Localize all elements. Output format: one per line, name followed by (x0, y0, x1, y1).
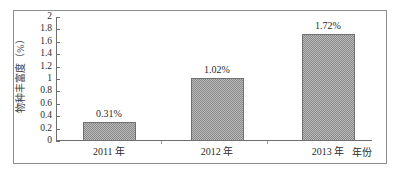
x-tick-mark (161, 141, 162, 144)
y-tick-label: 0.2 (0, 124, 52, 134)
bar-group: 0.31% (83, 17, 136, 141)
y-tick-label: 0.6 (0, 99, 52, 109)
y-tick-label: 0.4 (0, 111, 52, 121)
y-tick-label: 1.8 (0, 24, 52, 34)
y-tick-label: 2 (0, 12, 52, 22)
plot-area: 0.31%1.02%1.72% (56, 17, 372, 141)
bar-group: 1.72% (302, 17, 355, 141)
bar-group: 1.02% (191, 17, 244, 141)
x-tick-mark (267, 141, 268, 144)
bar[interactable] (83, 122, 136, 141)
y-tick-label: 1.4 (0, 49, 52, 59)
y-tick-label: 0 (0, 136, 52, 146)
y-tick-label: 1.6 (0, 37, 52, 47)
y-tick-label: 1.2 (0, 62, 52, 72)
x-tick-label: 2011 年 (69, 146, 149, 157)
bar-value-label: 1.02% (204, 65, 230, 75)
y-tick-label: 1 (0, 74, 52, 84)
bar-value-label: 1.72% (315, 21, 341, 31)
bar[interactable] (302, 34, 355, 141)
y-tick-mark (56, 141, 60, 142)
bar-chart: 物种丰富度（%） 00.20.40.60.811.21.41.61.82 0.3… (0, 0, 403, 178)
bar-value-label: 0.31% (96, 109, 122, 119)
x-tick-label: 2012 年 (177, 146, 257, 157)
bar[interactable] (191, 78, 244, 141)
y-tick-label: 0.8 (0, 86, 52, 96)
x-axis-title: 年份 (352, 147, 372, 158)
